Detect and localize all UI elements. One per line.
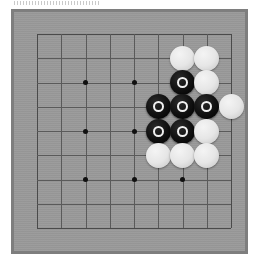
- stone-white[interactable]: [194, 143, 219, 168]
- stone-black[interactable]: [146, 119, 171, 144]
- stone-black[interactable]: [146, 94, 171, 119]
- stone-white[interactable]: [194, 119, 219, 144]
- stone-black[interactable]: [170, 94, 195, 119]
- stone-white[interactable]: [219, 94, 244, 119]
- stone-white[interactable]: [146, 143, 171, 168]
- stone-white[interactable]: [170, 143, 195, 168]
- stone-white[interactable]: [170, 46, 195, 71]
- go-board-stones[interactable]: [14, 12, 245, 251]
- stone-black[interactable]: [194, 94, 219, 119]
- go-board-surface[interactable]: [14, 12, 245, 251]
- stone-black[interactable]: [170, 119, 195, 144]
- stone-white[interactable]: [194, 70, 219, 95]
- stone-white[interactable]: [194, 46, 219, 71]
- go-board-frame[interactable]: [11, 9, 248, 254]
- stone-black[interactable]: [170, 70, 195, 95]
- screenshot-root: [0, 0, 257, 265]
- capture-artifact-strip: [14, 1, 100, 5]
